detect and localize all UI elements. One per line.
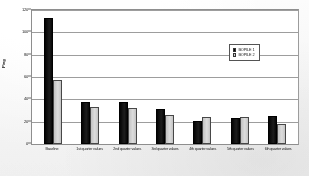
bar-group <box>259 10 296 144</box>
bar <box>119 102 128 144</box>
x-axis-tick-labels: Baseline1st quarter values2nd quarter va… <box>31 147 299 151</box>
bar-chart: Ping 120100806040200 Baseline1st quarter… <box>0 0 309 176</box>
bar-group <box>109 10 146 144</box>
x-axis-tick-label: 4th quarter values <box>184 147 222 151</box>
bar <box>193 121 202 144</box>
bar <box>202 117 211 144</box>
y-axis-tick-label: 100 <box>0 29 28 34</box>
legend-swatch-icon <box>233 48 236 51</box>
legend-swatch-icon <box>233 53 236 56</box>
bar <box>268 116 277 144</box>
x-axis-tick-label: 2nd quarter values <box>108 147 146 151</box>
bar <box>231 118 240 144</box>
bar-group <box>221 10 258 144</box>
bar-group <box>71 10 108 144</box>
x-axis-tick-label: 1st quarter values <box>71 147 109 151</box>
x-axis-tick-label: 3rd quarter values <box>146 147 184 151</box>
y-axis-title: Ping <box>1 59 6 68</box>
bar-group <box>146 10 183 144</box>
x-axis-tick-label: Baseline <box>33 147 71 151</box>
y-axis-tick-label: 60 <box>0 74 28 79</box>
bar <box>44 18 53 144</box>
bar <box>53 80 62 144</box>
bar <box>128 108 137 144</box>
bar-groups <box>32 10 298 144</box>
bar-group <box>184 10 221 144</box>
bar <box>156 109 165 144</box>
bar <box>165 115 174 144</box>
y-axis-tick-label: 20 <box>0 118 28 123</box>
bar <box>277 124 286 144</box>
y-axis-tick-label: 120 <box>0 7 28 12</box>
bar <box>90 107 99 144</box>
y-axis-tick-label: 0 <box>0 141 28 146</box>
bar <box>81 102 90 144</box>
plot-area <box>31 9 299 145</box>
legend: BOPILE 1 BOPILE 2 <box>229 44 260 61</box>
x-axis-tick-label: 6th quarter values <box>259 147 297 151</box>
legend-item-series-2: BOPILE 2 <box>233 53 255 57</box>
y-axis-tick-label: 80 <box>0 51 28 56</box>
x-axis-tick-label: 5th quarter values <box>222 147 260 151</box>
legend-label: BOPILE 2 <box>238 53 254 57</box>
bar <box>240 117 249 144</box>
y-axis-tick-label: 40 <box>0 96 28 101</box>
bar-group <box>34 10 71 144</box>
